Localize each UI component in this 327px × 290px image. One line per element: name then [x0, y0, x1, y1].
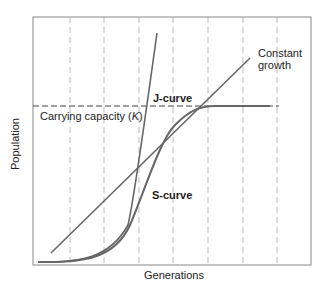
x-axis-label: Generations [144, 269, 204, 281]
constant-growth-line [51, 58, 250, 253]
vertical-gridlines [70, 17, 277, 265]
s-curve-line [38, 106, 270, 262]
carrying-capacity-label: Carrying capacity (K) [40, 110, 143, 122]
y-axis-label: Population [9, 118, 21, 170]
j-curve-label: J-curve [153, 92, 192, 104]
constant-growth-label-2: growth [258, 59, 291, 71]
chart-canvas [0, 0, 327, 290]
s-curve-label: S-curve [152, 189, 192, 201]
constant-growth-label-1: Constant [258, 47, 302, 59]
